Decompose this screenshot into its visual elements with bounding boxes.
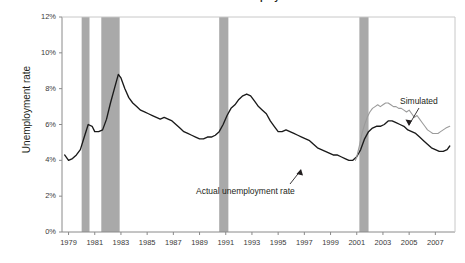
unemployment-rate-chart: Actual and Simulated Unemployment Rates … bbox=[0, 0, 465, 263]
recession-bands bbox=[82, 17, 369, 232]
annotation-actual-label: Actual unemployment rate bbox=[196, 186, 295, 196]
data-series bbox=[65, 74, 450, 160]
annotation-leaders bbox=[290, 108, 419, 184]
plot-area bbox=[0, 0, 465, 263]
series-line bbox=[65, 74, 450, 160]
arrowhead-simulated bbox=[406, 120, 413, 127]
annotation-simulated-label: Simulated bbox=[400, 96, 438, 106]
recession-band bbox=[359, 17, 368, 232]
series-line bbox=[355, 103, 449, 160]
